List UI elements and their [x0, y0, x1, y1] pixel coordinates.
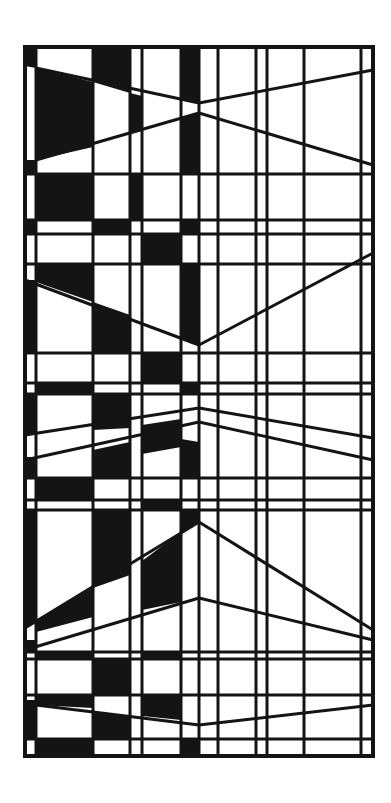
- black-fill-region: [36, 478, 93, 500]
- diagonal-line: [199, 408, 373, 438]
- black-fill-region: [181, 47, 199, 103]
- black-fill-region: [142, 353, 181, 383]
- diagonal-line: [199, 522, 373, 630]
- black-fill-region: [36, 739, 93, 756]
- diagonal-line: [199, 70, 373, 103]
- black-fill-region: [93, 220, 130, 234]
- diagonal-line: [199, 113, 373, 165]
- black-fill-region: [142, 695, 181, 720]
- diagonal-line: [199, 705, 373, 725]
- geometric-line-artwork: [0, 0, 391, 803]
- black-fill-region: [36, 174, 93, 220]
- black-fill-region: [93, 659, 130, 695]
- black-fill-region: [130, 93, 142, 134]
- black-fill-region: [181, 739, 199, 756]
- diagonal-line: [199, 422, 373, 460]
- black-fill-region: [36, 383, 93, 394]
- black-fill-region: [181, 220, 199, 234]
- diagonal-line: [199, 253, 373, 345]
- line-grid: [25, 47, 373, 756]
- black-fill-region: [142, 234, 181, 264]
- black-fill-region: [181, 383, 199, 394]
- black-fill-region: [93, 442, 130, 478]
- black-fill-region: [181, 439, 199, 478]
- black-fill-region: [130, 174, 142, 220]
- black-fill-region: [142, 419, 181, 454]
- black-fill-region: [181, 264, 199, 345]
- black-fill-region: [93, 302, 130, 353]
- black-fill-region: [36, 588, 93, 632]
- diagonal-line: [199, 598, 373, 640]
- filled-regions: [25, 47, 199, 756]
- black-fill-region: [181, 113, 199, 174]
